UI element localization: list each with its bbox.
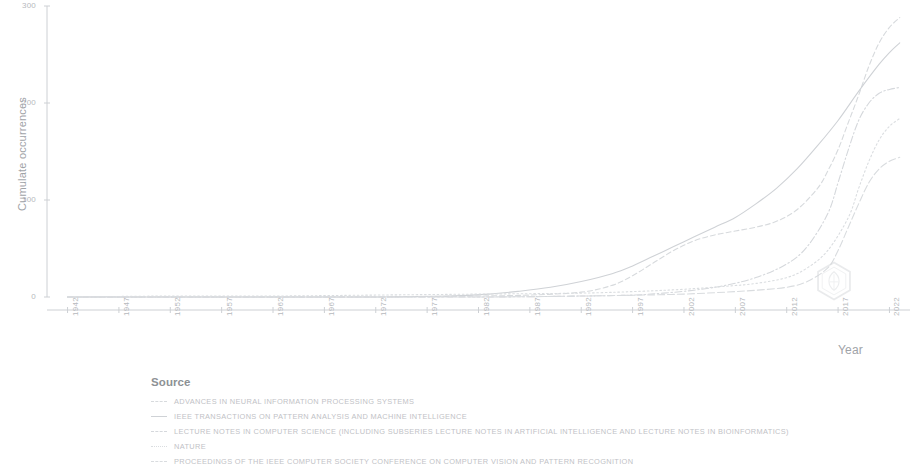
y-tick-label: 300 <box>6 1 36 10</box>
legend-item[interactable]: IEEE TRANSACTIONS ON PATTERN ANALYSIS AN… <box>151 409 911 424</box>
x-tick-label: 1977 <box>430 297 439 316</box>
x-tick-label: 1952 <box>173 297 182 316</box>
legend-item[interactable]: LECTURE NOTES IN COMPUTER SCIENCE (INCLU… <box>151 424 911 439</box>
x-tick-label: 2012 <box>790 297 799 316</box>
x-tick-label: 1992 <box>584 297 593 316</box>
x-tick-label: 1957 <box>225 297 234 316</box>
plot-area <box>0 0 918 360</box>
legend-item-label: IEEE TRANSACTIONS ON PATTERN ANALYSIS AN… <box>174 412 467 421</box>
legend-line-swatch <box>151 412 167 422</box>
y-axis-label: Cumulate occurrences <box>16 74 28 234</box>
data-series-group <box>68 18 900 297</box>
legend-line-swatch <box>151 427 167 437</box>
legend-item-label: PROCEEDINGS OF THE IEEE COMPUTER SOCIETY… <box>174 457 633 466</box>
x-tick-label: 1942 <box>71 297 80 316</box>
cumulative-occurrences-chart: 0100200300 19421947195219571962196719721… <box>0 0 918 466</box>
x-tick-label: 1987 <box>533 297 542 316</box>
x-tick-label: 1967 <box>327 297 336 316</box>
hexagon-shield-logo-watermark <box>812 260 856 302</box>
legend-item-label: NATURE <box>174 442 206 451</box>
series-line-5 <box>68 157 900 297</box>
legend-line-swatch <box>151 397 167 407</box>
x-axis-label: Year <box>838 343 863 357</box>
legend-item-label: LECTURE NOTES IN COMPUTER SCIENCE (INCLU… <box>174 427 789 436</box>
legend-item[interactable]: PROCEEDINGS OF THE IEEE COMPUTER SOCIETY… <box>151 454 911 466</box>
x-tick-label: 2002 <box>687 297 696 316</box>
x-tick-label: 1947 <box>122 297 131 316</box>
series-line-3 <box>68 87 900 297</box>
x-tick-label: 1962 <box>276 297 285 316</box>
series-line-1 <box>68 18 900 297</box>
legend-item[interactable]: ADVANCES IN NEURAL INFORMATION PROCESSIN… <box>151 394 911 409</box>
legend-item-label: ADVANCES IN NEURAL INFORMATION PROCESSIN… <box>174 397 414 406</box>
legend-item[interactable]: NATURE <box>151 439 911 454</box>
series-line-4 <box>68 119 900 297</box>
legend-line-swatch <box>151 457 167 466</box>
x-tick-label: 1972 <box>379 297 388 316</box>
axes <box>44 6 910 313</box>
x-tick-label: 2022 <box>892 297 901 316</box>
x-tick-label: 1982 <box>482 297 491 316</box>
y-tick-label: 0 <box>6 292 36 301</box>
legend-title: Source <box>151 376 911 388</box>
x-tick-label: 1997 <box>636 297 645 316</box>
legend-line-swatch <box>151 442 167 452</box>
x-tick-label: 2007 <box>738 297 747 316</box>
series-line-2 <box>68 43 900 297</box>
legend-entries: ADVANCES IN NEURAL INFORMATION PROCESSIN… <box>151 394 911 466</box>
legend: Source ADVANCES IN NEURAL INFORMATION PR… <box>151 376 911 466</box>
